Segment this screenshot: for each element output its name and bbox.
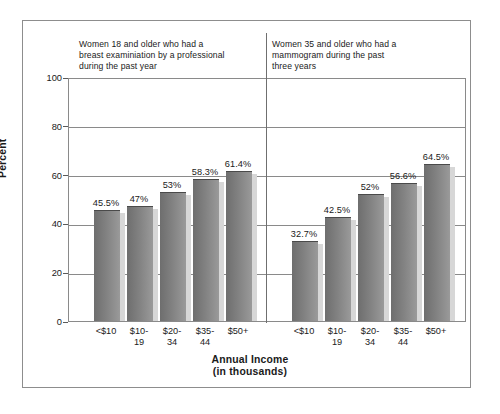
bar-value-label: 47% [118,194,160,204]
y-tick-label: 80 [34,122,62,132]
bar-value-label: 53% [151,180,193,190]
x-tick-label: $50+ [218,326,258,337]
bar-mammogram-0[interactable] [292,241,318,321]
bar-breast-examination-1[interactable] [127,206,153,321]
panel-title-breast-examination: Women 18 and older who had a breast exam… [79,39,255,73]
y-axis-title: Percent [0,138,8,178]
bar-value-label: 52% [349,182,391,192]
y-tick-label: 40 [34,219,62,229]
chart-figure: Women 18 and older who had a breast exam… [0,0,500,414]
bar-value-label: 32.7% [283,229,325,239]
bar-mammogram-2[interactable] [358,194,384,321]
bar-mammogram-1[interactable] [325,217,351,321]
bar-mammogram-3[interactable] [391,183,417,321]
y-axis-ticks: 020406080100 [30,78,62,322]
bar-mammogram-4[interactable] [424,164,450,321]
x-tick-label: $50+ [416,326,456,337]
panel-divider [266,33,267,323]
y-tick-label: 100 [34,73,62,83]
bar-breast-examination-0[interactable] [94,210,120,321]
bar-breast-examination-3[interactable] [193,179,219,321]
gridline [69,127,465,128]
bar-value-label: 56.6% [382,171,424,181]
y-tick-label: 60 [34,171,62,181]
bar-breast-examination-4[interactable] [226,171,252,321]
bar-breast-examination-2[interactable] [160,192,186,321]
bar-value-label: 42.5% [316,205,358,215]
panel-title-mammogram: Women 35 and older who had a mammogram d… [272,39,444,73]
x-axis-title: Annual Income (in thousands) [0,354,500,378]
y-tick-label: 20 [34,268,62,278]
y-tick-label: 0 [34,317,62,327]
bar-value-label: 61.4% [217,159,259,169]
bar-value-label: 64.5% [415,152,457,162]
